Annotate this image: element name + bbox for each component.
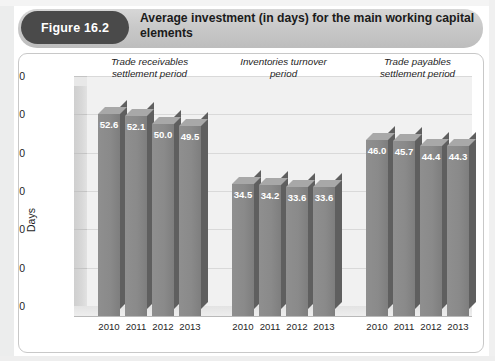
chart-panel: Days 0102030405060 52.652.150.049.5Trade… [18, 53, 484, 353]
y-tick-label: 50 [18, 108, 25, 120]
bar-face [313, 187, 335, 316]
plot-area: 52.652.150.049.5Trade receivablessettlem… [74, 76, 472, 316]
bar: 44.3 [447, 146, 469, 316]
group-title-line2: settlement period [84, 68, 215, 80]
gridline-tick [74, 191, 87, 192]
bar-face [125, 116, 147, 316]
y-tick-label: 60 [18, 70, 25, 82]
bar-value-label: 34.2 [259, 190, 281, 201]
gridline-tick [74, 268, 87, 269]
bar-value-label: 52.1 [125, 121, 147, 132]
figure-number-badge: Figure 16.2 [21, 11, 129, 44]
plot-floor-edge [74, 316, 472, 317]
y-tick-label: 10 [18, 262, 25, 274]
bar-face [232, 184, 254, 316]
bar-value-label: 44.3 [447, 151, 469, 162]
gridline-tick [74, 153, 87, 154]
bar: 44.4 [420, 146, 442, 316]
bar-value-label: 45.7 [393, 146, 415, 157]
x-tick-label: 2013 [307, 321, 341, 332]
bar-face [393, 141, 415, 316]
bar-value-label: 52.6 [98, 119, 120, 130]
gridline-tick [74, 114, 87, 115]
bar: 50.0 [152, 124, 174, 316]
bar-value-label: 33.6 [286, 192, 308, 203]
page-margin-right [489, 0, 495, 361]
y-axis-title: Days [25, 208, 37, 232]
bar-face [447, 146, 469, 316]
bar: 33.6 [313, 187, 335, 316]
figure-number-label: Figure 16.2 [41, 21, 109, 35]
y-tick-label: 40 [18, 147, 25, 159]
bar: 33.6 [286, 187, 308, 316]
bar: 52.6 [98, 114, 120, 316]
bar-value-label: 46.0 [366, 145, 388, 156]
y-tick-label: 0 [18, 300, 25, 312]
group-title-line1: Inventories turnover [218, 56, 349, 68]
bar-face [98, 114, 120, 316]
bar-face [366, 140, 388, 316]
bar-group-title: Inventories turnoverperiod [218, 56, 349, 79]
bar: 49.5 [179, 126, 201, 316]
bar-face [286, 187, 308, 316]
group-title-line2: settlement period [352, 68, 483, 80]
group-title-line2: period [218, 68, 349, 80]
bar: 34.2 [259, 185, 281, 316]
x-tick-label: 2013 [441, 321, 475, 332]
x-tick-label: 2013 [173, 321, 207, 332]
group-title-line1: Trade receivables [84, 56, 215, 68]
bar: 46.0 [366, 140, 388, 316]
bar: 45.7 [393, 141, 415, 316]
bar-side-face [201, 112, 208, 309]
figure-title: Average investment (in days) for the mai… [140, 11, 476, 40]
group-title-line1: Trade payables [352, 56, 483, 68]
bar-side-face [469, 132, 476, 309]
bar-face [420, 146, 442, 316]
bar-group-title: Trade receivablessettlement period [84, 56, 215, 79]
bar-side-face [335, 173, 342, 309]
bar-value-label: 33.6 [313, 192, 335, 203]
bar-value-label: 49.5 [179, 131, 201, 142]
bar-value-label: 34.5 [232, 189, 254, 200]
gridline-tick [74, 229, 87, 230]
bar: 34.5 [232, 184, 254, 316]
bar-group-title: Trade payablessettlement period [352, 56, 483, 79]
page-margin-left [0, 0, 14, 361]
bar-value-label: 50.0 [152, 129, 174, 140]
bar-face [259, 185, 281, 316]
bar-face [152, 124, 174, 316]
y-tick-label: 20 [18, 223, 25, 235]
figure-container: Figure 16.2 Average investment (in days)… [0, 0, 495, 361]
y-tick-label: 30 [18, 185, 25, 197]
page-margin-top [0, 0, 495, 6]
bar-value-label: 44.4 [420, 151, 442, 162]
page-margin-bottom [0, 356, 495, 361]
bar-face [179, 126, 201, 316]
bar: 52.1 [125, 116, 147, 316]
